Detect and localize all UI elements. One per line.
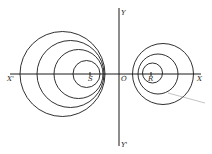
y-axis-pos-label: Y [121, 9, 127, 17]
y-axis-neg-label: Y' [121, 141, 128, 149]
origin-label: O [121, 75, 127, 83]
x-axis-pos-label: X [196, 75, 203, 83]
pointer-line [168, 93, 205, 103]
x-axis-neg-label: X' [6, 75, 14, 83]
apollonian-circles-diagram: X' X Y Y' O S R [0, 0, 212, 154]
point-r-label: R [147, 75, 154, 83]
point-s-label: S [88, 75, 93, 83]
